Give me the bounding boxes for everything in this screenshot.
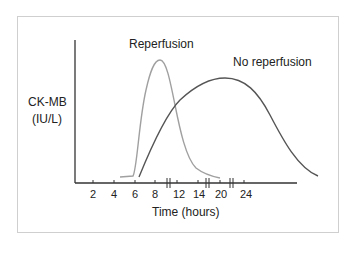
x-tick-label: 12 (173, 188, 185, 200)
x-tick-label: 20 (215, 188, 227, 200)
x-tick-label: 2 (90, 188, 96, 200)
x-axis-label: Time (hours) (152, 205, 220, 219)
y-axis-label-line2: (IU/L) (32, 112, 62, 126)
x-tick-label: 6 (132, 188, 138, 200)
x-tick-label: 4 (111, 188, 117, 200)
y-axis-label-line1: CK-MB (28, 95, 67, 109)
annotation-no-reperfusion: No reperfusion (233, 55, 312, 69)
no-reperfusion-curve (139, 78, 318, 177)
x-tick-label: 8 (152, 188, 158, 200)
reperfusion-curve (120, 60, 220, 178)
x-tick-label: 24 (240, 188, 252, 200)
x-tick-label: 14 (193, 188, 205, 200)
annotation-reperfusion: Reperfusion (129, 37, 194, 51)
